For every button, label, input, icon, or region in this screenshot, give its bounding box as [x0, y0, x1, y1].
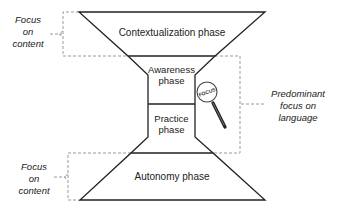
neck-left-edge [128, 56, 148, 153]
annotation-line: Focus [8, 14, 48, 26]
practice-phase-label: Practice phase [148, 113, 195, 135]
practice-line-1: Practice [148, 113, 195, 124]
annotation-line: focus on [262, 100, 334, 112]
annotation-bottom-left: Focus on content [14, 161, 54, 197]
awareness-phase-label: Awareness phase [148, 64, 195, 86]
annotation-top-left: Focus on content [8, 14, 48, 50]
contextualization-phase-label: Contextualization phase [110, 27, 234, 38]
practice-line-2: phase [148, 124, 195, 135]
annotation-line: Predominant [262, 88, 334, 100]
magnifying-glass-icon: FOCUS [197, 82, 225, 127]
awareness-line-1: Awareness [148, 64, 195, 75]
bracket-right [213, 56, 265, 153]
annotation-line: content [14, 185, 54, 197]
autonomy-phase-label: Autonomy phase [120, 171, 224, 182]
awareness-line-2: phase [148, 75, 195, 86]
annotation-right: Predominant focus on language [262, 88, 334, 124]
annotation-line: on [14, 173, 54, 185]
annotation-line: on [8, 26, 48, 38]
annotation-line: language [262, 112, 334, 124]
annotation-line: content [8, 38, 48, 50]
annotation-line: Focus [14, 161, 54, 173]
